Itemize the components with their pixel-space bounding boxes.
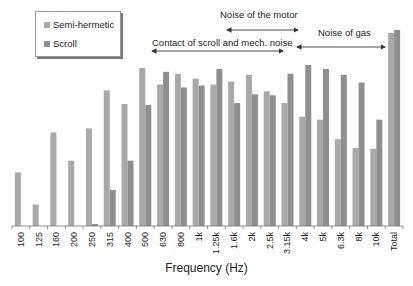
annotation-contact: Contact of scroll and mech. noise bbox=[152, 37, 292, 48]
x-tick-label: 6.3k bbox=[336, 232, 346, 250]
x-tick-label: 2k bbox=[247, 232, 257, 242]
bar-scroll-1k bbox=[199, 86, 205, 226]
bar-scroll-800 bbox=[181, 87, 187, 226]
annotation-motor: Noise of the motor bbox=[220, 9, 298, 20]
x-tick-label: 5k bbox=[318, 232, 328, 242]
bar-scroll-315 bbox=[110, 190, 116, 226]
bar-scroll-6.3k bbox=[341, 75, 347, 226]
x-tick-label: 4k bbox=[300, 232, 310, 242]
bar-scroll-400 bbox=[128, 161, 134, 226]
bar-semi-hermetic-10k bbox=[370, 149, 376, 226]
x-tick-label: 500 bbox=[140, 232, 150, 247]
bar-scroll-630 bbox=[163, 72, 169, 226]
bar-semi-hermetic-500 bbox=[139, 68, 145, 226]
annotation-gas: Noise of gas bbox=[318, 27, 371, 38]
bar-scroll-5k bbox=[323, 69, 329, 226]
bar-semi-hermetic-Total bbox=[388, 33, 394, 226]
x-tick-label: 1.6k bbox=[229, 232, 239, 250]
legend-label: Scroll bbox=[53, 38, 77, 49]
bar-scroll-500 bbox=[145, 105, 151, 226]
bar-scroll-8k bbox=[359, 83, 365, 226]
x-tick-label: Total bbox=[389, 232, 399, 251]
bar-scroll-2k bbox=[252, 94, 258, 226]
bar-scroll-10k bbox=[376, 120, 382, 226]
x-tick-label: 2.5k bbox=[265, 232, 275, 250]
legend-item-semi-hermetic: Semi-hermetic bbox=[44, 19, 114, 30]
x-tick-label: 400 bbox=[123, 232, 133, 247]
bar-semi-hermetic-800 bbox=[175, 74, 181, 226]
bar-semi-hermetic-160 bbox=[50, 132, 56, 226]
x-axis-label: Frequency (Hz) bbox=[0, 261, 413, 275]
bar-semi-hermetic-200 bbox=[68, 161, 74, 226]
bar-scroll-Total bbox=[394, 30, 400, 226]
legend-label: Semi-hermetic bbox=[53, 19, 114, 30]
legend-item-scroll: Scroll bbox=[44, 38, 77, 49]
bar-semi-hermetic-2k bbox=[246, 75, 252, 226]
x-tick-label: 1.25k bbox=[211, 232, 221, 255]
bar-semi-hermetic-5k bbox=[317, 120, 323, 226]
bar-semi-hermetic-400 bbox=[122, 104, 128, 226]
x-tick-labels: 1001251602002503154005006308001k1.25k1.6… bbox=[16, 232, 399, 255]
bar-scroll-4k bbox=[305, 65, 311, 226]
bar-semi-hermetic-125 bbox=[33, 205, 39, 226]
bar-semi-hermetic-3.15k bbox=[281, 103, 287, 226]
bar-semi-hermetic-315 bbox=[104, 90, 110, 226]
x-tick-label: 200 bbox=[69, 232, 79, 247]
x-tick-label: 100 bbox=[16, 232, 26, 247]
bar-semi-hermetic-1.25k bbox=[210, 85, 216, 226]
bar-semi-hermetic-8k bbox=[353, 148, 359, 226]
x-tick-label: 630 bbox=[158, 232, 168, 247]
bar-scroll-2.5k bbox=[270, 95, 276, 226]
legend-swatch-scroll bbox=[44, 41, 50, 47]
x-axis bbox=[12, 226, 403, 229]
bar-semi-hermetic-4k bbox=[299, 117, 305, 226]
bar-semi-hermetic-630 bbox=[157, 85, 163, 226]
x-tick-label: 250 bbox=[87, 232, 97, 247]
bars-group bbox=[15, 30, 400, 226]
bar-scroll-3.15k bbox=[287, 74, 293, 226]
x-tick-label: 125 bbox=[34, 232, 44, 247]
x-tick-label: 3.15k bbox=[282, 232, 292, 255]
legend-swatch-semi-hermetic bbox=[44, 22, 50, 28]
legend: Semi-hermetic Scroll bbox=[35, 11, 121, 57]
x-tick-label: 8k bbox=[354, 232, 364, 242]
x-tick-label: 160 bbox=[51, 232, 61, 247]
x-tick-label: 800 bbox=[176, 232, 186, 247]
bar-semi-hermetic-100 bbox=[15, 172, 21, 226]
bar-semi-hermetic-2.5k bbox=[264, 91, 270, 226]
x-tick-label: 1k bbox=[194, 232, 204, 242]
bar-semi-hermetic-6.3k bbox=[335, 139, 341, 226]
bar-semi-hermetic-1.6k bbox=[228, 82, 234, 226]
bar-semi-hermetic-250 bbox=[86, 128, 92, 226]
bar-scroll-1.6k bbox=[234, 103, 240, 226]
x-tick-label: 315 bbox=[105, 232, 115, 247]
bar-scroll-1.25k bbox=[216, 69, 222, 226]
bar-semi-hermetic-1k bbox=[193, 79, 199, 226]
x-tick-label: 10k bbox=[371, 232, 381, 247]
